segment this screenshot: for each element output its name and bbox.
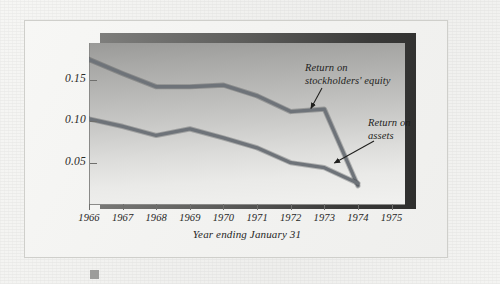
y-axis-tick <box>90 80 97 81</box>
chart-figure: 0.050.100.15 Return on stockholders' equ… <box>0 0 500 284</box>
y-axis-tick-label: 0.10 <box>65 113 86 125</box>
x-axis-tick <box>257 204 258 210</box>
y-axis-labels: 0.050.100.15 <box>34 0 86 284</box>
x-axis-tick <box>291 204 292 210</box>
y-axis-tick <box>90 121 97 122</box>
equity-annotation-label: Return on stockholders' equity <box>305 62 391 87</box>
x-axis-tick <box>190 204 191 210</box>
footer-square-marker <box>90 270 99 279</box>
x-axis-tick <box>392 204 393 210</box>
x-axis-tick <box>223 204 224 210</box>
y-axis-tick-label: 0.15 <box>65 72 86 84</box>
x-axis-tick <box>123 204 124 210</box>
y-axis-tick-label: 0.05 <box>65 155 86 167</box>
y-axis-tick <box>90 163 97 164</box>
series-line-assets <box>89 119 358 183</box>
x-axis-tick <box>89 204 90 210</box>
x-axis-tick <box>324 204 325 210</box>
x-axis-tick <box>156 204 157 210</box>
assets-annotation-label: Return on assets <box>368 117 411 142</box>
x-axis-title: Year ending January 31 <box>89 228 405 240</box>
x-axis-tick <box>358 204 359 210</box>
x-axis-tick-label: 1975 <box>372 212 412 223</box>
